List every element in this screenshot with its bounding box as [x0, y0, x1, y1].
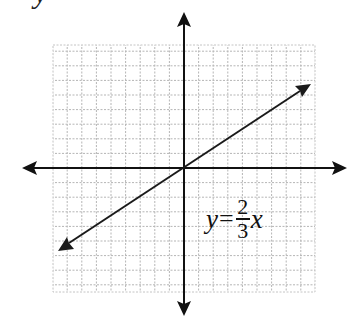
equation-label: y = 2 3 x: [206, 196, 263, 242]
equation-equals: =: [219, 206, 234, 232]
graph-svg: [0, 0, 352, 316]
coordinate-plane-figure: y y = 2 3 x: [0, 0, 352, 316]
fraction-denominator: 3: [237, 221, 248, 241]
line-lower-arrow-icon: [58, 237, 74, 251]
fraction-numerator: 2: [237, 197, 248, 217]
equation-variable: x: [251, 206, 263, 233]
equation-fraction: 2 3: [236, 197, 250, 241]
equation-lhs: y: [206, 206, 218, 233]
